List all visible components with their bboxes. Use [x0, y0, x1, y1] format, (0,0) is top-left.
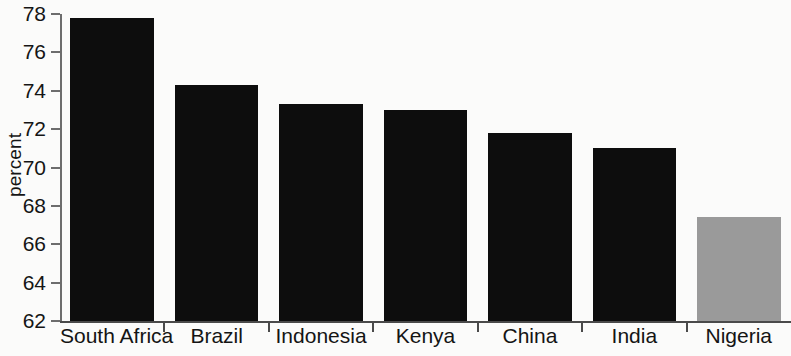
- y-axis-tick: 66: [51, 243, 60, 245]
- x-axis-label: India: [582, 324, 686, 347]
- y-axis-tick: 62: [51, 320, 60, 322]
- y-axis-tick-label: 72: [23, 118, 46, 139]
- y-axis-tick-label: 64: [23, 272, 46, 293]
- x-axis-label: South Africa: [60, 324, 164, 347]
- y-axis-tick: 68: [51, 205, 60, 207]
- x-axis-label: Indonesia: [269, 324, 373, 347]
- x-axis-line: [60, 321, 791, 323]
- y-axis-tick-label: 70: [23, 157, 46, 178]
- x-axis-label: Kenya: [373, 324, 477, 347]
- y-axis-line: [60, 14, 62, 323]
- y-axis-tick: 74: [51, 90, 60, 92]
- bar: [70, 18, 154, 321]
- y-axis-tick-label: 74: [23, 80, 46, 101]
- y-axis-tick-label: 68: [23, 195, 46, 216]
- bar: [279, 104, 363, 321]
- x-axis-label: Brazil: [164, 324, 268, 347]
- bar: [384, 110, 468, 321]
- y-axis-tick: 76: [51, 51, 60, 53]
- y-axis-tick-label: 78: [23, 3, 46, 24]
- bar: [488, 133, 572, 321]
- y-axis-tick: 70: [51, 167, 60, 169]
- bar: [175, 85, 259, 321]
- plot-area: 626466687072747678: [60, 14, 791, 322]
- y-axis-tick: 78: [51, 13, 60, 15]
- y-axis-tick-label: 66: [23, 233, 46, 254]
- bar-chart: percent 626466687072747678 South AfricaB…: [0, 0, 791, 356]
- y-axis-tick: 64: [51, 282, 60, 284]
- y-axis-tick: 72: [51, 128, 60, 130]
- y-axis-tick-label: 76: [23, 41, 46, 62]
- x-axis-label: China: [478, 324, 582, 347]
- y-axis-tick-label: 62: [23, 310, 46, 331]
- x-axis-label: Nigeria: [687, 324, 791, 347]
- bar: [697, 217, 781, 321]
- bar: [593, 148, 677, 321]
